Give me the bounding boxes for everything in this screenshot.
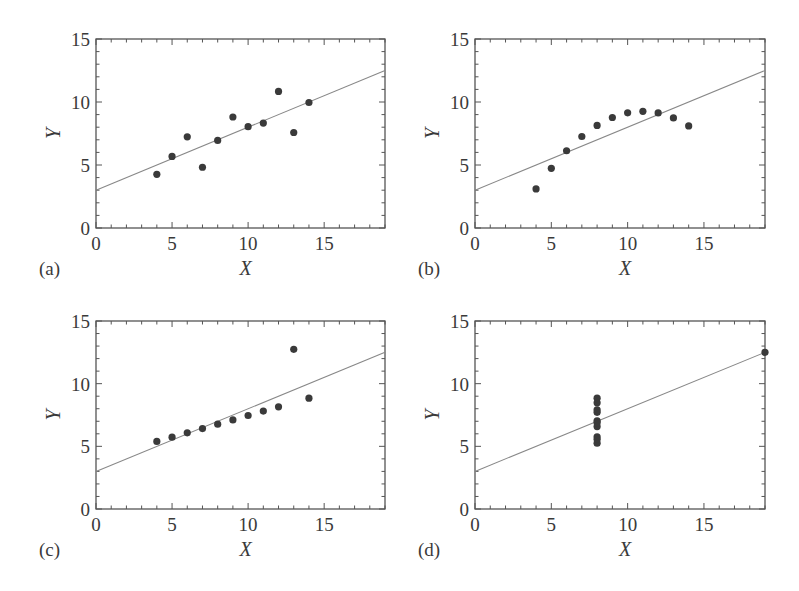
scatter-panel-a: 051015051015XY(a) [39, 29, 385, 280]
y-tick-label: 10 [450, 374, 469, 395]
data-point [290, 346, 297, 353]
data-point [245, 412, 252, 419]
data-point [624, 109, 631, 116]
y-tick-label: 5 [81, 155, 91, 176]
data-point [305, 99, 312, 106]
y-tick-label: 0 [460, 218, 470, 239]
scatter-panel-b: 051015051015XY(b) [418, 29, 765, 280]
x-tick-label: 0 [470, 514, 480, 535]
x-tick-label: 5 [547, 514, 557, 535]
y-tick-label: 0 [81, 499, 91, 520]
data-point [761, 349, 768, 356]
panel-label: (d) [418, 539, 440, 561]
plot-frame [475, 321, 765, 509]
x-tick-label: 15 [315, 514, 334, 535]
y-tick-label: 15 [450, 29, 469, 50]
x-axis-label: X [238, 257, 252, 279]
x-tick-label: 10 [239, 514, 258, 535]
data-point [229, 416, 236, 423]
data-point [655, 109, 662, 116]
x-tick-label: 5 [167, 514, 177, 535]
y-tick-label: 15 [71, 29, 90, 50]
data-point [594, 419, 601, 426]
data-point [153, 438, 160, 445]
data-points [594, 349, 769, 447]
y-axis-label: Y [421, 126, 443, 139]
axis-ticks [96, 39, 385, 228]
y-axis-label: Y [42, 126, 64, 139]
axis-ticks [475, 39, 765, 228]
x-tick-label: 5 [167, 233, 177, 254]
data-point [199, 425, 206, 432]
y-axis-label: Y [421, 408, 443, 421]
data-point [578, 133, 585, 140]
x-axis-label: X [618, 538, 632, 560]
panel-label: (c) [39, 539, 60, 561]
data-point [594, 436, 601, 443]
y-tick-label: 5 [81, 436, 91, 457]
data-point [275, 88, 282, 95]
y-tick-label: 0 [460, 499, 470, 520]
y-tick-label: 5 [460, 436, 470, 457]
data-point [685, 122, 692, 129]
data-point [245, 123, 252, 130]
data-points [532, 108, 692, 193]
plot-frame [475, 39, 765, 228]
axis-ticks [475, 321, 765, 509]
data-point [532, 185, 539, 192]
x-tick-label: 10 [618, 514, 637, 535]
x-tick-label: 15 [694, 233, 713, 254]
x-tick-label: 5 [547, 233, 557, 254]
x-tick-label: 0 [91, 233, 101, 254]
data-point [229, 113, 236, 120]
y-tick-label: 10 [71, 374, 90, 395]
y-axis-label: Y [42, 408, 64, 421]
panel-label: (b) [418, 258, 440, 280]
plot-frame [96, 321, 385, 509]
plot-frame [96, 39, 385, 228]
x-tick-label: 10 [618, 233, 637, 254]
x-axis-label: X [618, 257, 632, 279]
data-point [168, 153, 175, 160]
data-point [563, 147, 570, 154]
y-tick-label: 5 [460, 155, 470, 176]
x-tick-label: 0 [470, 233, 480, 254]
data-points [153, 88, 312, 178]
y-tick-label: 10 [450, 92, 469, 113]
axis-ticks [96, 321, 385, 509]
panel-label: (a) [39, 258, 60, 280]
data-point [153, 171, 160, 178]
data-point [609, 114, 616, 121]
data-point [305, 395, 312, 402]
data-point [168, 434, 175, 441]
data-point [275, 403, 282, 410]
scatter-panel-d: 051015051015XY(d) [418, 311, 769, 561]
data-point [260, 119, 267, 126]
data-point [214, 137, 221, 144]
x-tick-label: 0 [91, 514, 101, 535]
data-point [670, 114, 677, 121]
x-tick-label: 10 [239, 233, 258, 254]
y-tick-label: 15 [450, 311, 469, 332]
x-axis-label: X [238, 538, 252, 560]
data-point [184, 133, 191, 140]
x-tick-label: 15 [315, 233, 334, 254]
data-point [639, 108, 646, 115]
data-points [153, 346, 312, 445]
x-tick-label: 15 [694, 514, 713, 535]
y-tick-label: 10 [71, 92, 90, 113]
regression-line [96, 352, 385, 471]
data-point [548, 165, 555, 172]
regression-line [475, 71, 765, 191]
y-tick-label: 15 [71, 311, 90, 332]
y-tick-label: 0 [81, 218, 91, 239]
data-point [290, 129, 297, 136]
data-point [184, 429, 191, 436]
data-point [199, 164, 206, 171]
regression-line [475, 352, 765, 471]
data-point [214, 421, 221, 428]
regression-line [96, 71, 385, 191]
data-point [260, 408, 267, 415]
anscombe-quartet-figure: 051015051015XY(a)051015051015XY(b)051015… [0, 0, 799, 591]
data-point [594, 122, 601, 129]
